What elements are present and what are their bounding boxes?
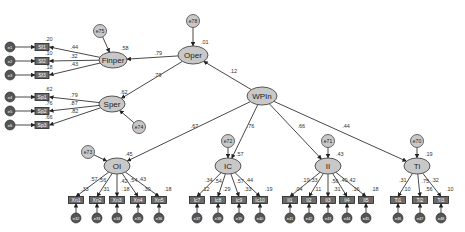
indicator-label: Xn1 bbox=[72, 197, 81, 203]
factor-loading: .56 bbox=[99, 177, 107, 183]
factor-loading: .75 bbox=[421, 178, 429, 184]
factor-loading: .42 bbox=[348, 177, 356, 183]
error-label: e44 bbox=[344, 216, 351, 221]
indicator-label: Ii1 bbox=[287, 197, 293, 203]
indicator-ii1: Ii1 bbox=[283, 197, 298, 204]
error-e44: e44 bbox=[342, 213, 352, 223]
indicator-r2: .66 bbox=[45, 114, 53, 120]
factor-loading: .40 bbox=[340, 177, 348, 183]
disturbance-e72: e72 bbox=[222, 135, 235, 148]
factor-loading: .31 bbox=[399, 177, 407, 183]
error-e46: e46 bbox=[393, 213, 403, 223]
indicator-xn4: Xn4 bbox=[131, 197, 146, 204]
latent-r2: .19 bbox=[425, 151, 433, 157]
indicator-r2: .29 bbox=[223, 186, 231, 192]
disturbance-label: e72 bbox=[224, 138, 233, 144]
indicator-r2: .19 bbox=[265, 186, 273, 192]
disturbance-label: e78 bbox=[189, 18, 198, 24]
disturbance-label: e74 bbox=[135, 124, 144, 130]
indicator-ii2: Ii2 bbox=[302, 197, 317, 204]
indicator-r2: .31 bbox=[102, 186, 110, 192]
error-label: e34 bbox=[114, 216, 121, 221]
latent-label: Oper bbox=[184, 51, 202, 60]
error-label: e42 bbox=[306, 216, 313, 221]
factor-loading: .44 bbox=[246, 177, 254, 183]
indicator-ti1: Ti1 bbox=[391, 197, 406, 204]
indicator-label: Ii5 bbox=[363, 197, 369, 203]
error-e40: e40 bbox=[255, 213, 265, 223]
error-label: e38 bbox=[215, 216, 222, 221]
indicator-sf3: Sf3 bbox=[35, 72, 49, 79]
indicator-r2: .31 bbox=[333, 186, 341, 192]
indicator-ti3: Ti3 bbox=[434, 197, 449, 204]
error-label: e45 bbox=[363, 216, 370, 221]
indicator-r2: .10 bbox=[446, 186, 454, 192]
disturbance-e70: e70 bbox=[411, 135, 424, 148]
error-label: e3 bbox=[8, 73, 13, 78]
indicator-r2: .30 bbox=[143, 186, 151, 192]
indicator-r2: .11 bbox=[314, 186, 321, 192]
structural-path-wpin-oper bbox=[204, 61, 252, 89]
error-e39: e39 bbox=[234, 213, 244, 223]
path-coefficient: .79 bbox=[154, 72, 162, 78]
structural-path-oper-sper bbox=[121, 61, 182, 98]
latent-label: Ti bbox=[414, 162, 421, 171]
factor-loading: .43 bbox=[71, 61, 79, 67]
disturbance-label: e73 bbox=[84, 149, 93, 155]
latent-oper: Oper bbox=[178, 46, 208, 64]
error-e32: e32 bbox=[71, 213, 81, 223]
latent-ii: II bbox=[315, 158, 341, 174]
disturbance-e74: e74 bbox=[133, 121, 146, 134]
indicator-r2: .20 bbox=[45, 36, 53, 42]
indicator-label: Ti1 bbox=[395, 197, 402, 203]
latent-r2: .43 bbox=[336, 151, 344, 157]
indicator-ii3: Ii3 bbox=[321, 197, 336, 204]
path-coefficient: .67 bbox=[191, 123, 199, 129]
latent-oi: OI bbox=[104, 158, 130, 174]
latent-finper: Finper bbox=[99, 52, 127, 68]
error-label: e4 bbox=[8, 95, 13, 100]
indicator-ii4: Ii4 bbox=[340, 197, 355, 204]
factor-loading: .44 bbox=[70, 44, 78, 50]
error-e45: e45 bbox=[361, 213, 371, 223]
indicator-label: Ti3 bbox=[438, 197, 445, 203]
indicator-r2: .04 bbox=[295, 186, 303, 192]
indicator-xn5: Xn5 bbox=[152, 197, 167, 204]
error-e42: e42 bbox=[304, 213, 314, 223]
indicator-label: Ic7 bbox=[194, 197, 201, 203]
indicator-label: Sf3 bbox=[38, 72, 46, 78]
error-label: e43 bbox=[325, 216, 332, 221]
indicator-label: Ii4 bbox=[344, 197, 350, 203]
latent-r2: .45 bbox=[125, 151, 133, 157]
error-e33: e33 bbox=[92, 213, 102, 223]
indicator-r2: .12 bbox=[202, 186, 210, 192]
latent-sper: Sper bbox=[99, 96, 125, 112]
indicator-r2: .33 bbox=[81, 186, 89, 192]
error-e37: e37 bbox=[192, 213, 202, 223]
disturbance-label: e75 bbox=[96, 28, 105, 34]
structural-path-wpin-ii bbox=[269, 104, 321, 159]
error-e2: e2 bbox=[5, 56, 15, 66]
error-e5: e5 bbox=[5, 106, 15, 116]
indicator-xn1: Xn1 bbox=[69, 197, 84, 204]
error-label: e1 bbox=[8, 45, 13, 50]
factor-loading: .57 bbox=[90, 176, 98, 182]
indicator-r2: .33 bbox=[244, 186, 252, 192]
indicator-r2: .10 bbox=[45, 50, 53, 56]
disturbance-e71: e71 bbox=[322, 135, 335, 148]
latent-r2: .57 bbox=[236, 151, 244, 157]
indicator-sp3: Sp3 bbox=[35, 122, 49, 129]
latent-ic: IC bbox=[215, 158, 241, 174]
error-e48: e48 bbox=[436, 213, 446, 223]
path-coefficient: .44 bbox=[342, 123, 350, 129]
disturbance-label: e71 bbox=[324, 138, 333, 144]
error-e38: e38 bbox=[213, 213, 223, 223]
latent-r2: .62 bbox=[120, 89, 128, 95]
indicator-label: Xn2 bbox=[93, 197, 102, 203]
factor-loading: .87 bbox=[70, 100, 78, 106]
latent-wpin: WPIn bbox=[247, 87, 277, 105]
structural-path-oper-finper bbox=[127, 56, 178, 59]
factor-loading: .32 bbox=[431, 177, 439, 183]
factor-loading: .79 bbox=[70, 92, 78, 98]
latent-label: IC bbox=[224, 162, 232, 171]
